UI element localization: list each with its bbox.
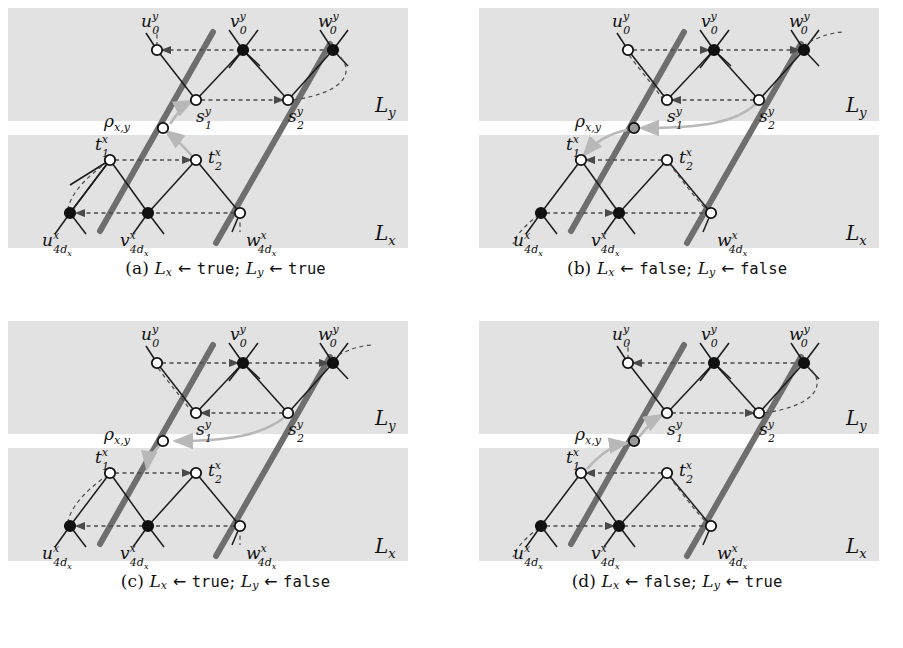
caption-a-prefix: (a) [125, 258, 149, 278]
caption-b-arrow-2: ← [721, 259, 735, 278]
caption-d-sep: ; [691, 571, 697, 591]
panel-b-canvas: uy0 vy0 wy0 sy1 sy2 ρx,y tx1 tx2 ux4dx v… [451, 0, 903, 262]
caption-c-ly-sub: y [252, 579, 258, 592]
node-u0y [623, 358, 633, 368]
node-s2y [754, 408, 764, 418]
caption-c-lx-value: true [192, 573, 230, 591]
caption-a-ly: L [246, 258, 257, 278]
node-s2y [754, 95, 764, 105]
caption-c-ly: L [241, 571, 252, 591]
node-u0y [623, 45, 633, 55]
panel-b: uy0 vy0 wy0 sy1 sy2 ρx,y tx1 tx2 ux4dx v… [451, 0, 903, 313]
caption-c-arrow-1: ← [173, 572, 187, 591]
caption-a-lx: L [154, 258, 165, 278]
caption-b-arrow-1: ← [620, 259, 634, 278]
node-v4x [614, 208, 624, 218]
panel-c-canvas: uy0 vy0 wy0 sy1 sy2 ρx,y tx1 tx2 ux4dx v… [0, 313, 451, 575]
label-s2y: sy2 [759, 105, 775, 132]
node-s2y [283, 408, 293, 418]
caption-b-lx-sub: x [608, 266, 614, 279]
caption-b-ly-value: false [740, 260, 787, 278]
node-u4x [536, 521, 546, 531]
label-s2y: sy2 [759, 418, 775, 445]
caption-d-arrow-1: ← [625, 572, 639, 591]
panel-d: uy0 vy0 wy0 sy1 sy2 ρx,y tx1 tx2 ux4dx v… [451, 313, 903, 626]
node-u4x [65, 521, 75, 531]
caption-c: (c) Lx ← true; Ly ← false [0, 571, 451, 592]
panel-a-canvas: uy0 vy0 wy0 sy1 sy2 ρx,y tx1 tx2 ux4dx v… [0, 0, 451, 262]
node-v0y [238, 358, 248, 368]
node-v0y [238, 45, 248, 55]
caption-a-lx-sub: x [166, 266, 172, 279]
node-w0y [328, 45, 338, 55]
caption-b-lx-value: false [639, 260, 686, 278]
caption-c-prefix: (c) [121, 571, 144, 591]
node-rho [629, 436, 639, 446]
node-v0y [709, 45, 719, 55]
node-v4x [143, 208, 153, 218]
node-t2x [662, 155, 672, 165]
node-w4x [235, 521, 245, 531]
node-v4x [143, 521, 153, 531]
caption-a: (a) Lx ← true; Ly ← true [0, 258, 451, 279]
node-s1y [662, 408, 672, 418]
caption-a-ly-sub: y [257, 266, 263, 279]
node-w0y [799, 358, 809, 368]
caption-c-sep: ; [229, 571, 235, 591]
node-s1y [191, 408, 201, 418]
caption-a-sep: ; [234, 258, 240, 278]
panel-d-canvas: uy0 vy0 wy0 sy1 sy2 ρx,y tx1 tx2 ux4dx v… [451, 313, 903, 575]
panel-a: uy0 vy0 wy0 sy1 sy2 ρx,y tx1 tx2 ux4dx v… [0, 0, 451, 313]
caption-d-lx-sub: x [613, 579, 619, 592]
caption-d-lx: L [602, 571, 613, 591]
label-s1y: sy1 [667, 418, 683, 445]
caption-c-arrow-2: ← [264, 572, 278, 591]
node-s2y [283, 95, 293, 105]
caption-a-arrow-2: ← [269, 259, 283, 278]
node-rho [158, 123, 168, 133]
caption-b-lx: L [597, 258, 608, 278]
caption-d-ly: L [702, 571, 713, 591]
caption-a-ly-value: true [288, 260, 326, 278]
node-t2x [191, 468, 201, 478]
caption-d-ly-sub: y [714, 579, 720, 592]
node-w4x [706, 208, 716, 218]
caption-d: (d) Lx ← false; Ly ← true [451, 571, 903, 592]
four-panel-figure: uy0 vy0 wy0 sy1 sy2 ρx,y tx1 tx2 ux4dx v… [0, 0, 903, 648]
node-rho [158, 436, 168, 446]
node-w4x [235, 208, 245, 218]
node-s1y [662, 95, 672, 105]
caption-d-ly-value: true [745, 573, 783, 591]
label-s2y: sy2 [288, 105, 304, 132]
caption-c-lx: L [149, 571, 160, 591]
node-t2x [191, 155, 201, 165]
caption-d-lx-value: false [644, 573, 691, 591]
panel-c: uy0 vy0 wy0 sy1 sy2 ρx,y tx1 tx2 ux4dx v… [0, 313, 451, 626]
caption-d-prefix: (d) [572, 571, 596, 591]
caption-a-lx-value: true [197, 260, 235, 278]
node-w0y [799, 45, 809, 55]
node-rho [629, 123, 639, 133]
node-w0y [328, 358, 338, 368]
node-v0y [709, 358, 719, 368]
node-u4x [536, 208, 546, 218]
label-s1y: sy1 [196, 105, 212, 132]
node-s1y [191, 95, 201, 105]
caption-b-ly: L [698, 258, 709, 278]
caption-c-lx-sub: x [161, 579, 167, 592]
node-v4x [614, 521, 624, 531]
caption-c-ly-value: false [283, 573, 330, 591]
caption-b-sep: ; [686, 258, 692, 278]
caption-b-prefix: (b) [567, 258, 591, 278]
label-s2y: sy2 [288, 418, 304, 445]
node-w4x [706, 521, 716, 531]
node-u4x [65, 208, 75, 218]
caption-a-arrow-1: ← [178, 259, 192, 278]
caption-d-arrow-2: ← [726, 572, 740, 591]
caption-b-ly-sub: y [709, 266, 715, 279]
node-u0y [152, 45, 162, 55]
node-u0y [152, 358, 162, 368]
caption-b: (b) Lx ← false; Ly ← false [451, 258, 903, 279]
node-t2x [662, 468, 672, 478]
